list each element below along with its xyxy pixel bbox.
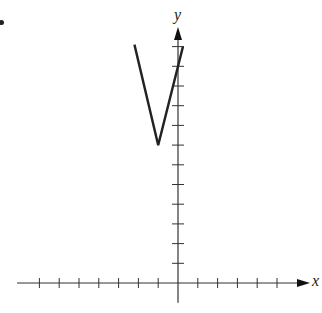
y-axis-label: y	[174, 6, 181, 24]
axes	[17, 27, 310, 303]
coordinate-plot	[0, 0, 322, 313]
axis-ticks	[39, 47, 277, 288]
x-axis-label: x	[312, 272, 319, 290]
v-graph-line	[134, 45, 183, 145]
